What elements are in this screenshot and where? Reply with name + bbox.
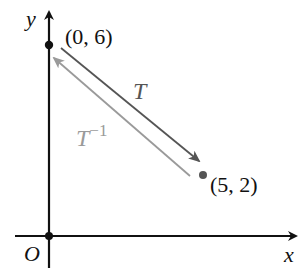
coordinate-diagram: y x O (0, 6) (5, 2) T T−1	[0, 0, 305, 280]
origin-point	[45, 232, 53, 240]
origin-label: O	[24, 241, 40, 266]
T-inverse-label: T−1	[76, 121, 107, 151]
y-axis-label: y	[24, 6, 36, 31]
point-5-2	[199, 171, 207, 179]
point-label-0-6: (0, 6)	[65, 24, 113, 49]
point-0-6	[45, 41, 53, 49]
T-inverse-arrow	[54, 58, 190, 176]
x-axis-label: x	[283, 242, 294, 267]
T-inverse-superscript: −1	[89, 121, 107, 140]
T-label: T	[133, 78, 148, 104]
point-label-5-2: (5, 2)	[210, 172, 258, 197]
